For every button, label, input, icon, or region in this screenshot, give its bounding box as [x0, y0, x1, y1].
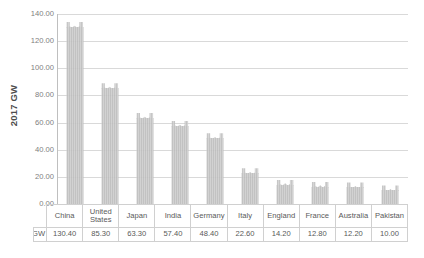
- table-header-cell: Australia: [335, 205, 371, 228]
- y-axis-tick-label: 20.00: [8, 173, 54, 181]
- table-value-cell: 48.40: [191, 228, 227, 242]
- table-value-cell: 63.30: [119, 228, 155, 242]
- table-header-row: ChinaUnited StatesJapanIndiaGermanyItaly…: [34, 205, 408, 228]
- y-axis-tick-label: 120.00: [8, 37, 54, 45]
- table-value-cell: 130.40: [47, 228, 83, 242]
- table-value-cell: 14.20: [263, 228, 299, 242]
- bar-slot: [233, 14, 268, 204]
- bar-chart: 2017 GW 140.00120.00100.0080.0060.0040.0…: [0, 0, 424, 258]
- y-axis-tick-label: 80.00: [8, 91, 54, 99]
- table-value-cell: 85.30: [83, 228, 119, 242]
- bar: [101, 88, 118, 204]
- table-header-cell: United States: [83, 205, 119, 228]
- table-header-cell: Pakistan: [371, 205, 407, 228]
- bar: [382, 190, 399, 204]
- bar-slot: [303, 14, 338, 204]
- bar-slot: [162, 14, 197, 204]
- y-axis-tick-label: 100.00: [8, 64, 54, 72]
- y-axis-tick-label: 40.00: [8, 146, 54, 154]
- bar: [347, 187, 364, 204]
- bar-slot: [268, 14, 303, 204]
- table-header-cell: Germany: [191, 205, 227, 228]
- bar: [136, 118, 153, 204]
- table-value-cell: 10.00: [371, 228, 407, 242]
- legend-cell: GW: [34, 228, 47, 242]
- bar: [66, 27, 83, 204]
- y-axis-tick-label: 140.00: [8, 10, 54, 18]
- table-header-cell: Japan: [119, 205, 155, 228]
- bar-slot: [338, 14, 373, 204]
- bar: [242, 173, 259, 204]
- bars-layer: [57, 14, 408, 204]
- bar: [206, 138, 223, 204]
- plot-area: [57, 14, 408, 204]
- table-header-cell: China: [47, 205, 83, 228]
- table-value-cell: 57.40: [155, 228, 191, 242]
- y-axis-title: 2017 GW: [8, 66, 19, 146]
- bar-slot: [57, 14, 92, 204]
- table-value-cell: 22.60: [227, 228, 263, 242]
- y-axis-tick-label: 60.00: [8, 119, 54, 127]
- bar-slot: [127, 14, 162, 204]
- bar-slot: [92, 14, 127, 204]
- bar-slot: [373, 14, 408, 204]
- table-header-cell: England: [263, 205, 299, 228]
- table-value-cell: 12.80: [299, 228, 335, 242]
- data-table: ChinaUnited StatesJapanIndiaGermanyItaly…: [33, 204, 408, 242]
- bar: [277, 185, 294, 204]
- table-value-row: GW 130.4085.3063.3057.4048.4022.6014.201…: [34, 228, 408, 242]
- table-corner-cell: [34, 205, 47, 228]
- bar-slot: [197, 14, 232, 204]
- table-header-cell: Italy: [227, 205, 263, 228]
- table-header-cell: India: [155, 205, 191, 228]
- legend-series-label: GW: [34, 230, 46, 239]
- table-value-cell: 12.20: [335, 228, 371, 242]
- table-header-cell: France: [299, 205, 335, 228]
- bar: [312, 187, 329, 204]
- bar: [171, 126, 188, 204]
